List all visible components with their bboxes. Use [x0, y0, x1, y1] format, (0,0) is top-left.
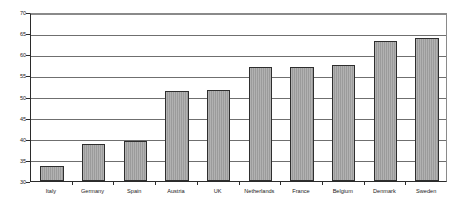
x-axis-tick-label: Belgium	[322, 187, 364, 195]
y-axis-tickmark	[26, 140, 30, 141]
y-axis-tickmark	[26, 98, 30, 99]
x-axis-tick-label: Austria	[155, 187, 197, 195]
y-axis-tick-label: 65	[0, 31, 26, 37]
y-axis-tick-label: 55	[0, 73, 26, 79]
x-axis-tick-label: Sweden	[405, 187, 447, 195]
y-axis-tickmark	[26, 161, 30, 162]
x-axis-tick-label: France	[280, 187, 322, 195]
bar-germany	[82, 144, 105, 181]
x-axis-tick-label: Denmark	[364, 187, 406, 195]
y-axis-tickmark	[26, 182, 30, 183]
bar-chart: 303540455055606570 ItalyGermanySpainAust…	[0, 0, 457, 208]
bar-denmark	[374, 41, 397, 181]
y-axis-tick-label: 60	[0, 52, 26, 58]
x-axis-tickmark	[405, 182, 406, 185]
y-axis-tick-label: 45	[0, 116, 26, 122]
y-axis: 303540455055606570	[0, 0, 26, 208]
x-axis-tickmark	[280, 182, 281, 185]
x-axis-tickmark	[155, 182, 156, 185]
x-axis-tick-label: Spain	[113, 187, 155, 195]
bar-sweden	[415, 38, 438, 181]
y-axis-tickmark	[26, 55, 30, 56]
x-axis-tick-label: UK	[197, 187, 239, 195]
x-axis-tick-label: Germany	[72, 187, 114, 195]
bar-italy	[40, 166, 63, 181]
x-axis-tickmarks	[30, 182, 447, 186]
bar-belgium	[332, 65, 355, 181]
x-axis-tickmark	[239, 182, 240, 185]
x-axis-tickmark	[322, 182, 323, 185]
x-axis-tickmark	[113, 182, 114, 185]
x-axis: ItalyGermanySpainAustriaUKNetherlandsFra…	[30, 187, 447, 201]
y-axis-tick-label: 70	[0, 10, 26, 16]
x-axis-tickmark	[197, 182, 198, 185]
bars-group	[31, 14, 446, 181]
y-axis-tick-label: 50	[0, 95, 26, 101]
bar-spain	[124, 141, 147, 181]
y-axis-tick-label: 30	[0, 179, 26, 185]
bar-uk	[207, 90, 230, 181]
plot-area	[30, 13, 447, 182]
y-axis-tick-label: 40	[0, 137, 26, 143]
bar-austria	[165, 91, 188, 181]
bar-netherlands	[249, 67, 272, 181]
bar-france	[290, 67, 313, 181]
y-axis-tickmark	[26, 34, 30, 35]
y-axis-tick-label: 35	[0, 158, 26, 164]
y-axis-tickmark	[26, 76, 30, 77]
x-axis-tickmark	[72, 182, 73, 185]
x-axis-tick-label: Italy	[30, 187, 72, 195]
y-axis-tickmark	[26, 13, 30, 14]
y-axis-tickmark	[26, 119, 30, 120]
x-axis-tick-label: Netherlands	[239, 187, 281, 195]
x-axis-tickmark	[364, 182, 365, 185]
